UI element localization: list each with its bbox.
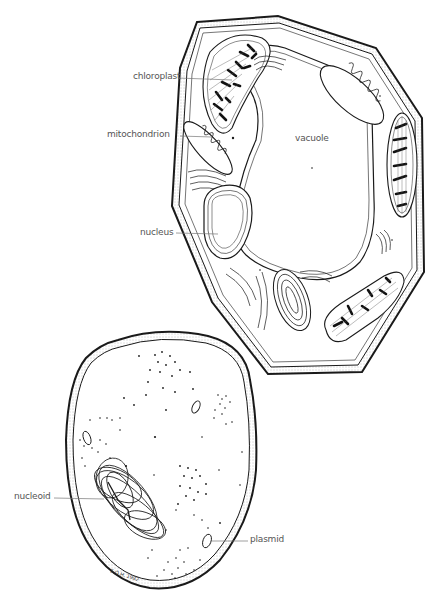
bacterial-cell-membrane [73,339,249,580]
label-chloroplast: chloroplast [133,71,180,81]
label-vacuole: vacuole [295,133,329,143]
plant-cell [172,16,424,374]
chloroplast-2 [387,113,417,217]
label-nucleoid: nucleoid [14,491,51,501]
bacterial-cell [66,332,256,589]
label-nucleus: nucleus [140,227,173,237]
label-mitochondrion: mitochondrion [107,129,170,139]
cell-diagram [0,0,448,610]
label-plasmid: plasmid [250,534,284,544]
